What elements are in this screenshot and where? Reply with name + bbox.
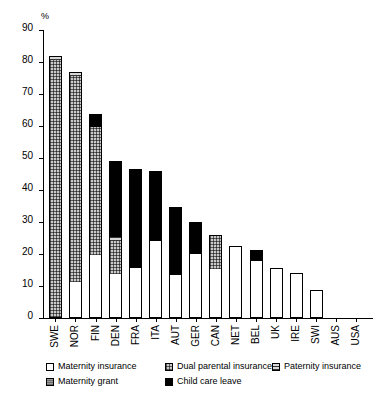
bar-segment-maternity-insurance (89, 255, 102, 318)
legend-item-dual-parental-insurance: Dual parental insurance (165, 362, 272, 371)
legend-label: Child care leave (177, 377, 242, 386)
x-axis-label-ita: ITA (151, 325, 161, 340)
legend-label: Maternity insurance (58, 362, 137, 371)
x-axis-tick (156, 318, 157, 322)
bar-segment-maternity-insurance (149, 241, 162, 318)
bar-segment-maternity-insurance (209, 269, 222, 318)
x-axis-label-ger: GER (191, 325, 201, 347)
bar-segment-dual-parental-insurance (49, 60, 62, 318)
y-axis-tick: 0 (39, 318, 43, 319)
y-axis-tick-label: 30 (11, 215, 33, 225)
x-axis-tick (96, 318, 97, 322)
bar-segment-paternity-insurance (109, 237, 122, 241)
y-axis-tick-label: 20 (11, 247, 33, 257)
bar-segment-maternity-insurance (290, 273, 303, 318)
legend-swatch-maternity-grant (46, 378, 54, 386)
stacked-bar-chart-figure: % 0102030405060708090 SWENORFINDENFRAITA… (0, 0, 389, 404)
x-axis-tick (356, 318, 357, 322)
x-axis-tick (276, 318, 277, 322)
bar-segment-paternity-insurance (49, 56, 62, 60)
bar-segment-maternity-insurance (169, 275, 182, 318)
x-axis-label-den: DEN (111, 325, 121, 346)
x-axis-tick (236, 318, 237, 322)
legend-item-paternity-insurance: Paternity insurance (272, 362, 361, 371)
x-axis-label-fin: FIN (91, 325, 101, 341)
x-axis-label-nor: NOR (70, 325, 80, 347)
bar-segment-child-care-leave (149, 171, 162, 240)
x-axis-label-fra: FRA (131, 325, 141, 345)
bar-segment-maternity-insurance (229, 246, 242, 318)
y-axis-tick-label: 60 (11, 119, 33, 129)
bar-segment-dual-parental-insurance (89, 127, 102, 255)
x-axis-label-usa: USA (351, 325, 361, 346)
bar-segment-maternity-insurance (310, 290, 323, 318)
legend-item-maternity-insurance: Maternity insurance (46, 362, 137, 371)
bar-segment-child-care-leave (169, 207, 182, 275)
bar-segment-maternity-insurance (129, 268, 142, 318)
x-axis-tick (296, 318, 297, 322)
legend-label: Paternity insurance (284, 362, 361, 371)
bar-segment-maternity-insurance (250, 261, 263, 318)
legend-item-child-care-leave: Child care leave (165, 377, 242, 386)
bar-segment-child-care-leave (250, 250, 263, 261)
bar-segment-maternity-insurance (270, 268, 283, 318)
x-axis-label-uk: UK (271, 325, 281, 339)
y-axis-tick-label: 10 (11, 279, 33, 289)
x-axis-label-swi: SWI (311, 325, 321, 344)
bar-segment-dual-parental-insurance (109, 241, 122, 275)
legend-swatch-maternity-insurance (46, 363, 54, 371)
x-axis-label-aus: AUS (331, 325, 341, 346)
bars-layer (43, 30, 373, 318)
x-axis-tick (336, 318, 337, 322)
x-axis-tick (116, 318, 117, 322)
bar-segment-child-care-leave (89, 114, 102, 127)
x-axis-label-swe: SWE (50, 325, 60, 348)
x-axis-label-can: CAN (211, 325, 221, 346)
x-axis-label-bel: BEL (251, 325, 261, 344)
bar-segment-paternity-insurance (69, 72, 82, 76)
bar-segment-maternity-insurance (189, 254, 202, 318)
plot-area: 0102030405060708090 SWENORFINDENFRAITAAU… (43, 30, 373, 318)
y-axis-tick-label: 80 (11, 55, 33, 65)
x-axis-tick (216, 318, 217, 322)
x-axis-tick (55, 318, 56, 322)
bar-segment-child-care-leave (189, 222, 202, 253)
x-axis-label-aut: AUT (171, 325, 181, 345)
y-axis-tick-label: 90 (11, 23, 33, 33)
legend-item-maternity-grant: Maternity grant (46, 377, 118, 386)
x-axis-tick (176, 318, 177, 322)
legend-row-1: Maternity insuranceDual parental insuran… (46, 362, 382, 377)
y-axis-tick-label: 0 (11, 311, 33, 321)
x-axis-tick (196, 318, 197, 322)
legend-row-2: Maternity grantChild care leave (46, 377, 382, 392)
chart-legend: Maternity insuranceDual parental insuran… (46, 362, 382, 392)
x-axis-label-net: NET (231, 325, 241, 345)
x-axis-line (43, 318, 373, 319)
x-axis-label-ire: IRE (291, 325, 301, 342)
bar-segment-child-care-leave (109, 161, 122, 237)
legend-swatch-child-care-leave (165, 378, 173, 386)
legend-swatch-paternity-insurance (272, 363, 280, 371)
legend-label: Dual parental insurance (177, 362, 272, 371)
bar-segment-maternity-insurance (109, 274, 122, 318)
y-axis-tick-label: 40 (11, 183, 33, 193)
legend-swatch-dual-parental-insurance (165, 363, 173, 371)
bar-segment-dual-parental-insurance (69, 76, 82, 282)
x-axis-tick (256, 318, 257, 322)
bar-segment-child-care-leave (129, 169, 142, 268)
x-axis-tick (75, 318, 76, 322)
y-axis-tick-label: 70 (11, 87, 33, 97)
bar-segment-dual-parental-insurance (209, 235, 222, 270)
x-axis-tick (316, 318, 317, 322)
x-axis-tick (136, 318, 137, 322)
bar-segment-maternity-insurance (69, 282, 82, 318)
legend-label: Maternity grant (58, 377, 118, 386)
y-axis-unit-label: % (41, 12, 49, 21)
y-axis-tick-label: 50 (11, 151, 33, 161)
